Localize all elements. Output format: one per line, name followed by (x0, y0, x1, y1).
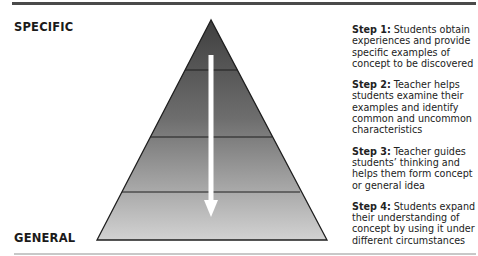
step-3: Step 3:Teacher guides students’ thinking… (352, 146, 478, 191)
step-1: Step 1:Students obtain experiences and p… (352, 24, 478, 69)
bottom-rule (14, 253, 476, 255)
steps-list: Step 1:Students obtain experiences and p… (352, 24, 478, 256)
step-title: Step 2: (352, 79, 391, 90)
step-title: Step 4: (352, 201, 391, 212)
step-title: Step 1: (352, 24, 391, 35)
step-title: Step 3: (352, 146, 391, 157)
step-2: Step 2:Teacher helps students examine th… (352, 79, 478, 135)
step-4: Step 4:Students expand their understandi… (352, 201, 478, 246)
